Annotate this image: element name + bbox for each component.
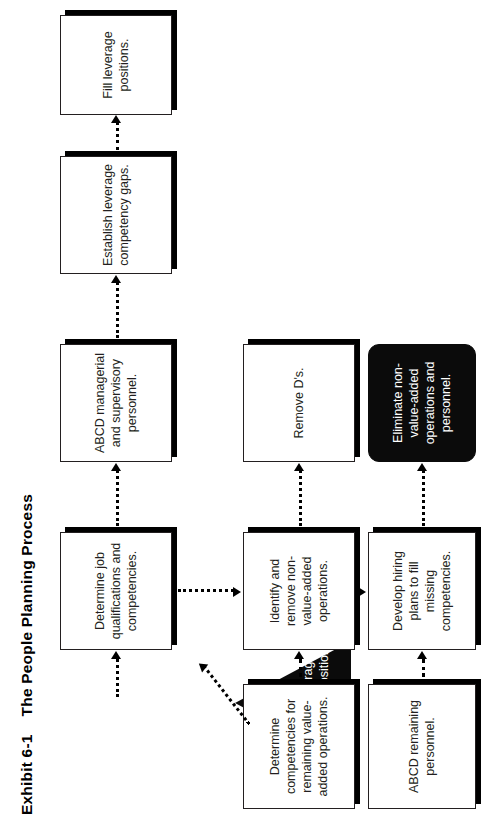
node-determine-competencies-remaining[interactable]: Determine competencies for remaining val… <box>243 684 355 809</box>
node-label: Determine job qualifications and compete… <box>92 539 140 643</box>
arrowhead-down <box>233 587 241 597</box>
connector-n8-to-n9 <box>422 659 425 677</box>
node-label: ABCD remaining personnel. <box>406 691 438 802</box>
node-abcd-remaining-personnel[interactable]: ABCD remaining personnel. <box>368 684 476 809</box>
connector-n1-to-n6 <box>178 589 234 592</box>
node-label: Remove D's. <box>291 367 307 438</box>
arrowhead-right <box>417 463 427 471</box>
node-label: Identify and remove non-value-added oper… <box>267 539 331 643</box>
exhibit-canvas: Exhibit 6-1 The People Planning Process … <box>0 0 493 837</box>
node-remove-ds[interactable]: Remove D's. <box>243 344 355 462</box>
node-label: ABCD managerial and supervisory personne… <box>92 351 140 455</box>
node-establish-leverage-gaps[interactable]: Establish leverage competency gaps. <box>60 156 172 274</box>
connector-n2-to-n3 <box>116 282 119 338</box>
node-fill-leverage-positions[interactable]: Fill leverage positions. <box>60 15 172 115</box>
arrowhead-right <box>111 463 121 471</box>
arrowhead-right <box>417 651 427 659</box>
connector-n5-to-n6 <box>299 659 302 677</box>
connector-n6-to-n7 <box>299 470 302 526</box>
arrowhead-right <box>111 651 121 659</box>
node-label: Establish leverage competency gaps. <box>100 163 132 267</box>
node-eliminate-nonvalue-operations[interactable]: Eliminate non-value-added operations and… <box>368 344 476 462</box>
node-determine-job-qualifications[interactable]: Determine job qualifications and compete… <box>60 532 172 650</box>
arrowhead-down <box>358 587 366 597</box>
node-label: Determine competencies for remaining val… <box>267 691 331 802</box>
connector-start-to-determine-job <box>116 659 119 697</box>
page-title: Exhibit 6-1 The People Planning Process <box>18 494 36 815</box>
connector-n9-to-n10 <box>422 470 425 526</box>
arrowhead-right <box>111 275 121 283</box>
node-develop-hiring-plans[interactable]: Develop hiring plans to fill missing com… <box>368 532 476 650</box>
node-label: Eliminate non-value-added operations and… <box>390 351 454 455</box>
arrowhead-right <box>111 115 121 123</box>
connector-n3-to-n4 <box>116 122 119 150</box>
arrowhead-right <box>294 463 304 471</box>
node-abcd-managerial-supervisory[interactable]: ABCD managerial and supervisory personne… <box>60 344 172 462</box>
connector-n1-to-n2 <box>116 470 119 526</box>
arrowhead-right <box>294 651 304 659</box>
node-identify-remove-nonvalue[interactable]: Identify and remove non-value-added oper… <box>243 532 355 650</box>
node-label: Develop hiring plans to fill missing com… <box>390 539 454 643</box>
node-label: Fill leverage positions. <box>100 22 132 108</box>
